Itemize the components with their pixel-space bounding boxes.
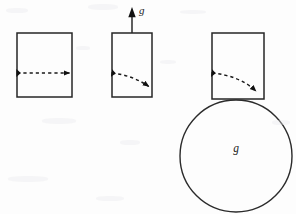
panel-1-box xyxy=(17,33,72,97)
gravity-vector-label: g xyxy=(139,4,145,16)
panel-2-group: g xyxy=(112,4,152,97)
panel-2-trajectory xyxy=(112,73,149,87)
physics-diagram: g g xyxy=(0,0,296,214)
gravity-source-label: g xyxy=(233,142,239,155)
figure-canvas: g g xyxy=(0,0,296,214)
panel-2-box xyxy=(112,33,152,97)
panel-1-group xyxy=(17,33,72,97)
gravity-source-circle xyxy=(180,100,292,212)
panel-3-group: g xyxy=(180,33,292,212)
panel-3-box xyxy=(212,33,264,99)
gravity-vector-arrowhead xyxy=(128,7,135,17)
panel-3-trajectory xyxy=(212,73,256,91)
